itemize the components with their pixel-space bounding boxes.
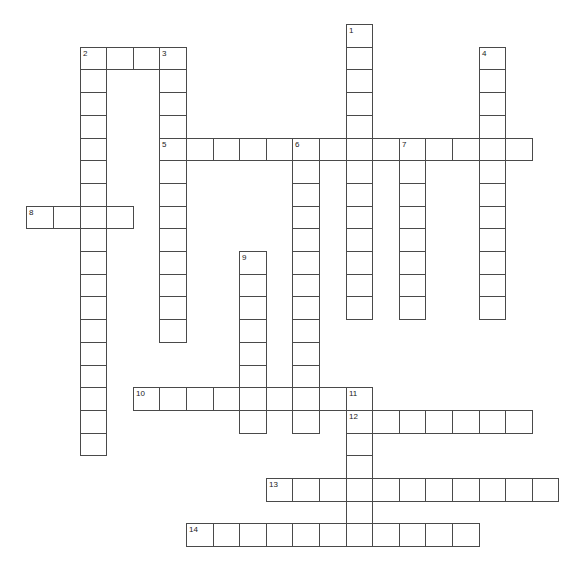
grid-cell[interactable] bbox=[372, 138, 400, 161]
grid-cell[interactable] bbox=[266, 387, 293, 411]
grid-cell[interactable] bbox=[213, 138, 240, 161]
grid-cell[interactable] bbox=[159, 92, 187, 116]
grid-cell[interactable] bbox=[292, 183, 320, 207]
grid-cell[interactable] bbox=[106, 206, 134, 229]
grid-cell[interactable] bbox=[399, 251, 426, 275]
grid-cell[interactable]: 5 bbox=[159, 138, 187, 161]
grid-cell[interactable] bbox=[292, 523, 320, 547]
grid-cell[interactable] bbox=[80, 69, 107, 93]
grid-cell[interactable] bbox=[452, 478, 480, 502]
grid-cell[interactable] bbox=[319, 478, 347, 502]
grid-cell[interactable]: 2 bbox=[80, 47, 107, 70]
grid-cell[interactable] bbox=[159, 228, 187, 252]
grid-cell[interactable] bbox=[479, 183, 506, 207]
grid-cell[interactable] bbox=[159, 183, 187, 207]
grid-cell[interactable] bbox=[346, 138, 373, 161]
grid-cell[interactable] bbox=[479, 274, 506, 297]
grid-cell[interactable] bbox=[133, 47, 160, 70]
grid-cell[interactable] bbox=[159, 274, 187, 297]
grid-cell[interactable] bbox=[505, 138, 533, 161]
grid-cell[interactable] bbox=[505, 410, 533, 434]
grid-cell[interactable] bbox=[80, 342, 107, 366]
grid-cell[interactable]: 10 bbox=[133, 387, 160, 411]
grid-cell[interactable] bbox=[452, 138, 480, 161]
grid-cell[interactable]: 11 bbox=[346, 387, 373, 411]
grid-cell[interactable] bbox=[80, 183, 107, 207]
grid-cell[interactable] bbox=[239, 296, 267, 320]
grid-cell[interactable] bbox=[80, 92, 107, 116]
grid-cell[interactable] bbox=[80, 274, 107, 297]
grid-cell[interactable]: 3 bbox=[159, 47, 187, 70]
grid-cell[interactable] bbox=[80, 251, 107, 275]
grid-cell[interactable] bbox=[106, 47, 134, 70]
grid-cell[interactable] bbox=[346, 92, 373, 116]
grid-cell[interactable] bbox=[319, 523, 347, 547]
grid-cell[interactable] bbox=[239, 138, 267, 161]
grid-cell[interactable] bbox=[399, 160, 426, 184]
grid-cell[interactable] bbox=[399, 523, 426, 547]
grid-cell[interactable] bbox=[239, 523, 267, 547]
grid-cell[interactable] bbox=[80, 206, 107, 229]
grid-cell[interactable] bbox=[399, 228, 426, 252]
grid-cell[interactable]: 4 bbox=[479, 47, 506, 70]
grid-cell[interactable] bbox=[239, 342, 267, 366]
grid-cell[interactable] bbox=[159, 206, 187, 229]
grid-cell[interactable] bbox=[479, 160, 506, 184]
grid-cell[interactable] bbox=[532, 478, 559, 502]
grid-cell[interactable] bbox=[425, 478, 453, 502]
grid-cell[interactable] bbox=[505, 478, 533, 502]
grid-cell[interactable]: 13 bbox=[266, 478, 293, 502]
grid-cell[interactable] bbox=[346, 501, 373, 524]
grid-cell[interactable] bbox=[346, 455, 373, 479]
grid-cell[interactable] bbox=[479, 251, 506, 275]
grid-cell[interactable] bbox=[239, 410, 267, 434]
grid-cell[interactable] bbox=[346, 523, 373, 547]
grid-cell[interactable] bbox=[80, 387, 107, 411]
grid-cell[interactable] bbox=[239, 274, 267, 297]
grid-cell[interactable] bbox=[479, 206, 506, 229]
grid-cell[interactable] bbox=[159, 160, 187, 184]
grid-cell[interactable] bbox=[213, 523, 240, 547]
grid-cell[interactable] bbox=[346, 296, 373, 320]
grid-cell[interactable] bbox=[425, 138, 453, 161]
grid-cell[interactable]: 7 bbox=[399, 138, 426, 161]
grid-cell[interactable] bbox=[319, 387, 347, 411]
grid-cell[interactable] bbox=[292, 228, 320, 252]
grid-cell[interactable] bbox=[80, 115, 107, 139]
grid-cell[interactable] bbox=[213, 387, 240, 411]
grid-cell[interactable] bbox=[452, 523, 480, 547]
grid-cell[interactable]: 6 bbox=[292, 138, 320, 161]
grid-cell[interactable] bbox=[80, 138, 107, 161]
grid-cell[interactable] bbox=[80, 410, 107, 434]
grid-cell[interactable] bbox=[292, 274, 320, 297]
grid-cell[interactable] bbox=[239, 387, 267, 411]
grid-cell[interactable] bbox=[292, 365, 320, 388]
grid-cell[interactable] bbox=[372, 478, 400, 502]
grid-cell[interactable] bbox=[399, 274, 426, 297]
grid-cell[interactable] bbox=[346, 433, 373, 456]
grid-cell[interactable] bbox=[346, 160, 373, 184]
grid-cell[interactable] bbox=[292, 251, 320, 275]
grid-cell[interactable] bbox=[479, 92, 506, 116]
grid-cell[interactable] bbox=[292, 387, 320, 411]
grid-cell[interactable] bbox=[346, 47, 373, 70]
grid-cell[interactable] bbox=[346, 274, 373, 297]
grid-cell[interactable] bbox=[292, 410, 320, 434]
grid-cell[interactable] bbox=[80, 296, 107, 320]
grid-cell[interactable] bbox=[372, 523, 400, 547]
grid-cell[interactable] bbox=[80, 319, 107, 343]
grid-cell[interactable] bbox=[292, 296, 320, 320]
grid-cell[interactable] bbox=[399, 183, 426, 207]
grid-cell[interactable] bbox=[479, 69, 506, 93]
grid-cell[interactable] bbox=[239, 319, 267, 343]
grid-cell[interactable] bbox=[346, 251, 373, 275]
grid-cell[interactable] bbox=[159, 115, 187, 139]
grid-cell[interactable] bbox=[292, 319, 320, 343]
grid-cell[interactable] bbox=[80, 228, 107, 252]
grid-cell[interactable] bbox=[53, 206, 81, 229]
grid-cell[interactable] bbox=[292, 342, 320, 366]
grid-cell[interactable]: 12 bbox=[346, 410, 373, 434]
grid-cell[interactable] bbox=[346, 183, 373, 207]
grid-cell[interactable] bbox=[292, 478, 320, 502]
grid-cell[interactable] bbox=[239, 365, 267, 388]
